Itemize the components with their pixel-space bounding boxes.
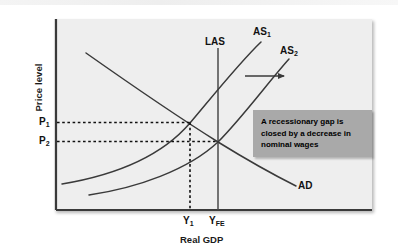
- curve-label-as2-subscript: 2: [294, 50, 298, 57]
- x-tick-yfe-subscript: FE: [216, 220, 225, 227]
- y-tick-p1: P1: [39, 116, 50, 127]
- y-tick-p2: P2: [39, 135, 50, 146]
- curve-as1: [62, 42, 261, 184]
- callout-box: A recessionary gap is closed by a decrea…: [253, 110, 372, 157]
- y-tick-p2-subscript: 2: [46, 140, 50, 147]
- curve-label-ad: AD: [298, 180, 312, 191]
- curve-label-as1: AS1: [253, 26, 271, 37]
- curve-label-as2: AS2: [280, 45, 298, 56]
- x-axis-title: Real GDP: [180, 234, 223, 245]
- y-tick-p2-base: P: [39, 135, 46, 146]
- curve-label-as1-subscript: 1: [267, 31, 271, 38]
- x-tick-yfe-base: Y: [209, 215, 216, 226]
- x-tick-yfe: YFE: [209, 215, 225, 226]
- curve-label-as1-base: AS: [253, 26, 267, 37]
- curve-label-as2-base: AS: [280, 45, 294, 56]
- x-tick-y1-base: Y: [183, 215, 190, 226]
- x-tick-y1: Y1: [183, 215, 194, 226]
- callout-text: A recessionary gap is closed by a decrea…: [261, 117, 351, 149]
- figure-root: Price level Real GDP P1 P2 Y1 YFE AS1 AS…: [0, 0, 398, 251]
- curve-label-las: LAS: [205, 36, 225, 47]
- y-tick-p1-subscript: 1: [46, 121, 50, 128]
- x-tick-y1-subscript: 1: [190, 220, 194, 227]
- y-tick-p1-base: P: [39, 116, 46, 127]
